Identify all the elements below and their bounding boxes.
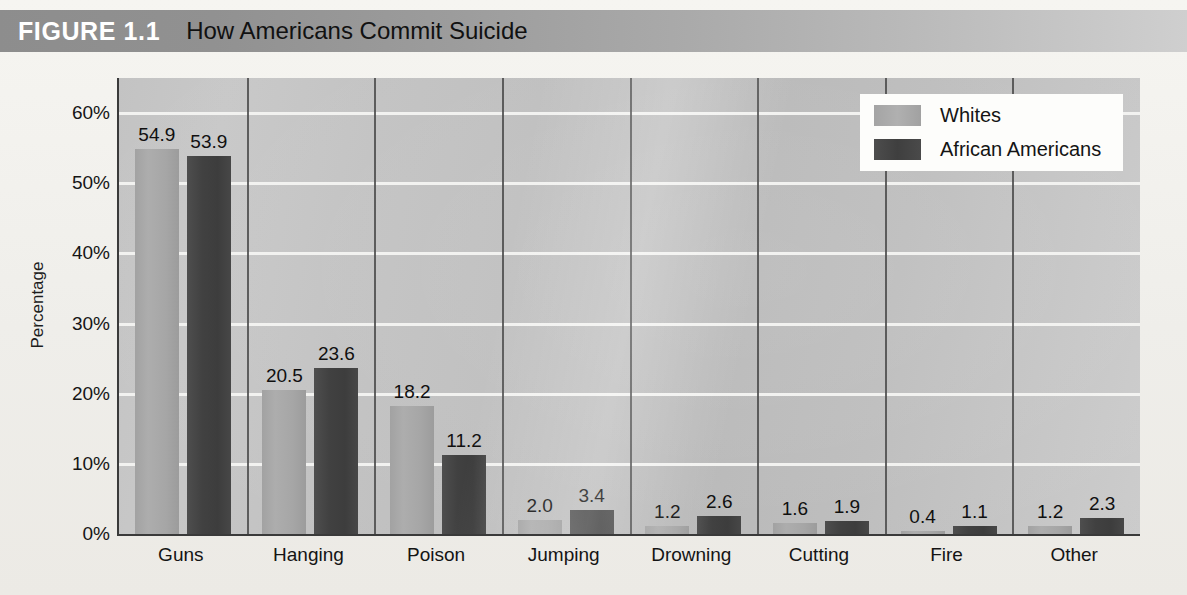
bar-value-label: 2.0	[526, 495, 552, 517]
bar-value-label: 1.6	[782, 498, 808, 520]
category-separator	[757, 78, 759, 534]
y-axis-tick-label: 50%	[48, 172, 110, 194]
legend-label: Whites	[940, 104, 1001, 127]
bar-jumping-whites	[518, 520, 562, 534]
legend-label: African Americans	[940, 138, 1101, 161]
category-separator	[502, 78, 504, 534]
x-axis-tick-label-jumping: Jumping	[528, 544, 600, 566]
bar-cutting-whites	[773, 523, 817, 534]
bar-fire-whites	[901, 531, 945, 534]
category-separator	[374, 78, 376, 534]
y-axis-tick-label: 20%	[48, 383, 110, 405]
chart-area: Percentage 60%50%40%30%20%10%0% 54.953.9…	[0, 58, 1187, 595]
bar-value-label: 2.3	[1089, 493, 1115, 515]
category-separator	[630, 78, 632, 534]
bar-value-label: 1.2	[654, 501, 680, 523]
bar-jumping-african-americans	[570, 510, 614, 534]
bar-value-label: 0.4	[909, 506, 935, 528]
bar-hanging-whites	[262, 390, 306, 534]
bar-value-label: 11.2	[446, 430, 482, 452]
bar-drowning-whites	[645, 526, 689, 534]
bar-hanging-african-americans	[314, 368, 358, 534]
bar-fire-african-americans	[953, 526, 997, 534]
figure-title: How Americans Commit Suicide	[186, 17, 527, 45]
x-axis-tick-label-drowning: Drowning	[651, 544, 731, 566]
x-axis-tick-label-guns: Guns	[158, 544, 203, 566]
y-axis-tick-label: 10%	[48, 453, 110, 475]
bar-other-whites	[1028, 526, 1072, 534]
figure-number: FIGURE 1.1	[18, 17, 160, 46]
x-axis-tick-labels: GunsHangingPoisonJumpingDrowningCuttingF…	[117, 544, 1138, 584]
bar-value-label: 53.9	[190, 131, 227, 153]
bar-value-label: 3.4	[578, 485, 604, 507]
bar-value-label: 1.1	[961, 501, 987, 523]
bar-poison-whites	[390, 406, 434, 534]
y-axis-tick-labels: 60%50%40%30%20%10%0%	[38, 58, 110, 595]
legend-item: African Americans	[874, 138, 1101, 161]
bar-value-label: 1.9	[834, 496, 860, 518]
legend-item: Whites	[874, 104, 1101, 127]
category-separator	[247, 78, 249, 534]
x-axis-tick-label-poison: Poison	[407, 544, 465, 566]
bar-value-label: 54.9	[138, 124, 175, 146]
y-axis-tick-label: 0%	[48, 523, 110, 545]
chart-legend: WhitesAfrican Americans	[860, 94, 1123, 171]
x-axis-tick-label-other: Other	[1050, 544, 1098, 566]
x-axis-tick-label-cutting: Cutting	[789, 544, 849, 566]
bar-cutting-african-americans	[825, 521, 869, 534]
bar-guns-african-americans	[187, 156, 231, 534]
bar-value-label: 23.6	[318, 343, 355, 365]
figure-header-bar: FIGURE 1.1 How Americans Commit Suicide	[0, 10, 1187, 52]
bar-other-african-americans	[1080, 518, 1124, 534]
bar-value-label: 1.2	[1037, 501, 1063, 523]
y-axis-tick-label: 60%	[48, 102, 110, 124]
bar-value-label: 18.2	[394, 381, 431, 403]
x-axis-tick-label-fire: Fire	[930, 544, 963, 566]
legend-swatch-icon	[874, 139, 921, 160]
bar-guns-whites	[135, 149, 179, 534]
y-axis-tick-label: 30%	[48, 313, 110, 335]
bar-poison-african-americans	[442, 455, 486, 534]
x-axis-tick-label-hanging: Hanging	[273, 544, 344, 566]
legend-swatch-icon	[874, 105, 921, 126]
bar-value-label: 2.6	[706, 491, 732, 513]
y-axis-tick-label: 40%	[48, 242, 110, 264]
bar-drowning-african-americans	[697, 516, 741, 534]
bar-value-label: 20.5	[266, 365, 303, 387]
